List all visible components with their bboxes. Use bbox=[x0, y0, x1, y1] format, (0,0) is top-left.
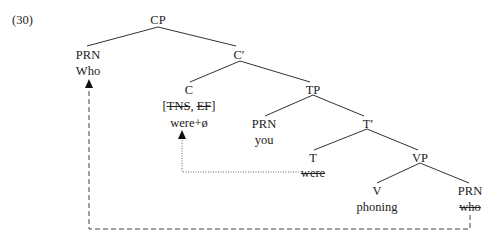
word-who-moved: Who bbox=[76, 64, 100, 78]
feature-tns-deleted: TNS bbox=[167, 99, 191, 113]
word-were-null: were+ø bbox=[170, 116, 208, 130]
feature-ef-deleted: EF bbox=[197, 99, 212, 113]
node-spec-tp-prn: PRN bbox=[252, 117, 276, 131]
node-v: V bbox=[372, 184, 381, 198]
word-were-trace: were bbox=[301, 166, 325, 180]
node-obj-prn: PRN bbox=[458, 184, 482, 198]
node-c-bar: C′ bbox=[233, 48, 244, 62]
tree-branches bbox=[0, 0, 495, 238]
node-tp: TP bbox=[306, 83, 321, 97]
word-who-trace: who bbox=[459, 200, 481, 214]
node-spec-cp-prn: PRN bbox=[76, 48, 100, 62]
node-t: T bbox=[309, 151, 317, 165]
c-features: [TNS, EF] bbox=[163, 99, 216, 113]
example-number: (30) bbox=[12, 13, 33, 28]
node-c: C bbox=[185, 83, 193, 97]
node-t-bar: T′ bbox=[363, 117, 373, 131]
word-phoning: phoning bbox=[357, 200, 398, 214]
dotted-movement-arrow bbox=[178, 130, 299, 172]
node-cp: CP bbox=[150, 13, 165, 27]
word-you: you bbox=[255, 133, 274, 147]
node-vp: VP bbox=[412, 151, 428, 165]
